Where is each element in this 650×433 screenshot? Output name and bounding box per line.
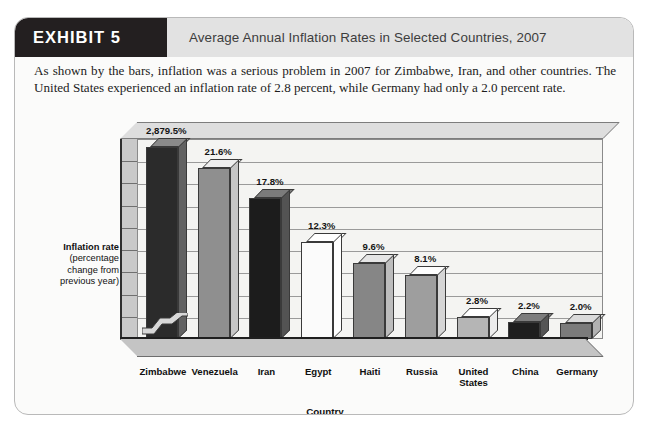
bar-face <box>301 242 333 339</box>
chart-figure: Inflation rate (percentage change from p… <box>15 114 634 414</box>
bar-face <box>457 317 489 339</box>
bar-face <box>198 168 230 339</box>
x-tick-label-germany: Germany <box>537 366 617 377</box>
exhibit-title-bar: Average Annual Inflation Rates in Select… <box>167 18 633 57</box>
bar-egypt[interactable]: 12.3% <box>301 242 333 339</box>
y-axis-title-line2: (percentage <box>35 253 119 264</box>
exhibit-header: EXHIBIT 5 Average Annual Inflation Rates… <box>15 18 633 57</box>
exhibit-card: EXHIBIT 5 Average Annual Inflation Rates… <box>14 17 634 415</box>
x-axis-tick-labels: ZimbabweVenezuelaIranEgyptHaitiRussiaUni… <box>120 366 620 400</box>
bar-face <box>353 263 385 339</box>
y-axis-title-line4: previous year) <box>35 276 119 287</box>
bar-value-label: 12.3% <box>287 220 357 231</box>
bar-value-label: 9.6% <box>339 241 409 252</box>
bar-value-label: 21.6% <box>183 146 253 157</box>
bar-value-label: 17.8% <box>235 176 305 187</box>
y-axis-title-line1: Inflation rate <box>35 242 119 253</box>
bar-side-face <box>281 189 290 339</box>
page-title: Average Annual Inflation Rates in Select… <box>189 30 547 45</box>
x-tick-label-line1: Germany <box>537 366 617 377</box>
plot-floor-outline <box>120 339 620 357</box>
x-tick-label-line2: States <box>434 377 514 388</box>
exhibit-number-label: EXHIBIT 5 <box>33 28 121 47</box>
bar-value-label: 8.1% <box>390 253 460 264</box>
bar-face <box>405 275 437 339</box>
bar-face <box>146 147 178 339</box>
bar-side-face <box>385 254 394 339</box>
bar-venezuela[interactable]: 21.6% <box>198 168 230 339</box>
bar-value-label: 2.0% <box>546 301 616 312</box>
bar-haiti[interactable]: 9.6% <box>353 263 385 339</box>
bar-face <box>249 198 281 339</box>
bar-russia[interactable]: 8.1% <box>405 275 437 339</box>
y-axis-title-line3: change from <box>35 265 119 276</box>
bar-side-face <box>178 138 187 339</box>
bar-iran[interactable]: 17.8% <box>249 198 281 339</box>
plot-area: 2,879.5%21.6%17.8%12.3%9.6%8.1%2.8%2.2%2… <box>120 122 620 358</box>
x-axis-title: Country <box>15 406 634 415</box>
y-axis-title: Inflation rate (percentage change from p… <box>35 242 119 288</box>
exhibit-description: As shown by the bars, inflation was a se… <box>34 63 616 96</box>
bar-zimbabwe[interactable]: 2,879.5% <box>146 147 178 339</box>
bar-value-label: 2,879.5% <box>131 125 201 136</box>
exhibit-number-tag: EXHIBIT 5 <box>15 18 167 57</box>
bar-united-states[interactable]: 2.8% <box>457 317 489 339</box>
bars-container: 2,879.5%21.6%17.8%12.3%9.6%8.1%2.8%2.2%2… <box>137 139 603 339</box>
